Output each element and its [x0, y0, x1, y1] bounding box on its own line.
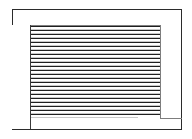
content-panel[interactable]	[31, 26, 161, 119]
sidebar[interactable]	[12, 25, 31, 129]
content-text-line	[31, 114, 161, 118]
content-right-rule	[160, 25, 161, 119]
screenshot-canvas	[0, 0, 192, 139]
footer-rule	[160, 118, 182, 119]
header-bar	[12, 9, 161, 26]
